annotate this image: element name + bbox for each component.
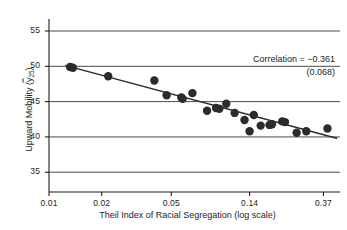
data-point xyxy=(323,124,331,132)
y-tick-label: 55 xyxy=(18,25,40,35)
data-point xyxy=(69,64,77,72)
y-axis-title-prefix: Upward Mobility ( xyxy=(24,82,34,152)
y-axis-title: Upward Mobility (y25) xyxy=(24,35,35,185)
data-point xyxy=(215,104,223,112)
y-bar-symbol: y xyxy=(24,78,34,83)
data-point xyxy=(302,127,310,135)
data-point xyxy=(188,89,196,97)
data-point xyxy=(281,118,289,126)
x-tick-label: 0.37 xyxy=(303,198,343,208)
x-tick-label: 0.02 xyxy=(82,198,122,208)
data-point xyxy=(162,91,170,99)
data-point xyxy=(203,107,211,115)
y-tick-marks-group xyxy=(45,31,49,172)
scatter-plot-figure: 3540455055 0.010.020.050.140.37 Upward M… xyxy=(0,0,347,230)
data-point xyxy=(104,72,112,80)
data-point xyxy=(150,76,158,84)
data-point xyxy=(240,116,248,124)
correlation-standard-error: (0.068) xyxy=(253,66,335,79)
correlation-annotation: Correlation = −0.361 (0.068) xyxy=(253,53,335,79)
x-tick-marks-group xyxy=(49,192,323,196)
data-point xyxy=(245,127,253,135)
data-point xyxy=(250,111,258,119)
y-axis-title-suffix: ) xyxy=(24,67,34,70)
data-point xyxy=(292,128,300,136)
data-point xyxy=(222,100,230,108)
plot-canvas xyxy=(0,0,347,230)
x-tick-label: 0.14 xyxy=(230,198,270,208)
data-point xyxy=(230,109,238,117)
x-axis-title: Theil Index of Racial Segregation (log s… xyxy=(49,210,326,220)
x-tick-label: 0.01 xyxy=(29,198,69,208)
correlation-value: Correlation = −0.361 xyxy=(253,53,335,66)
x-tick-label: 0.05 xyxy=(151,198,191,208)
data-point xyxy=(178,95,186,103)
data-point xyxy=(256,121,264,129)
data-point xyxy=(268,120,276,128)
